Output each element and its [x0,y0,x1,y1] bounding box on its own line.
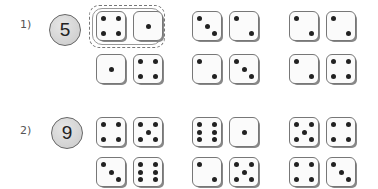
problem-2-target-number: 9 [51,117,83,149]
pip-dot [234,59,239,64]
pip-dot [302,130,307,135]
die-face-1[interactable] [133,11,163,41]
die-face-4[interactable] [326,54,356,84]
die-face-4[interactable] [96,11,126,41]
pip-dot [116,137,121,142]
pip-dot [212,130,217,135]
pip-dot [197,16,202,21]
pip-dot [339,170,344,175]
pip-dot [197,137,202,142]
pip-dot [212,177,217,182]
pip-dot [212,31,217,36]
problem-1-label: 1) [20,18,31,31]
pip-dot [138,162,143,167]
pip-dot [101,162,106,167]
pip-dot [294,122,299,127]
pip-dot [146,130,151,135]
pip-dot [212,122,217,127]
pip-dot [138,122,143,127]
pip-dot [234,177,239,182]
pip-dot [346,137,351,142]
pip-dot [294,137,299,142]
pip-dot [242,67,247,72]
pip-dot [138,137,143,142]
pip-dot [242,170,247,175]
die-face-4[interactable] [326,117,356,147]
pip-dot [294,162,299,167]
pip-dot [309,74,314,79]
pip-dot [331,16,336,21]
pip-dot [234,16,239,21]
pip-dot [138,177,143,182]
die-face-5[interactable] [229,157,259,187]
die-face-1[interactable] [229,117,259,147]
pip-dot [346,31,351,36]
pip-dot [101,137,106,142]
pip-dot [331,162,336,167]
pip-dot [205,24,210,29]
die-face-3[interactable] [229,54,259,84]
die-face-2[interactable] [326,11,356,41]
die-face-4[interactable] [289,157,319,187]
die-face-3[interactable] [326,157,356,187]
pip-dot [346,59,351,64]
die-face-2[interactable] [289,11,319,41]
die-face-2[interactable] [289,54,319,84]
pip-dot [249,162,254,167]
pip-dot [309,177,314,182]
pip-dot [294,16,299,21]
pip-dot [331,137,336,142]
pip-dot [146,24,151,29]
die-face-3[interactable] [192,11,222,41]
pip-dot [116,16,121,21]
die-face-2[interactable] [229,11,259,41]
die-face-6[interactable] [192,117,222,147]
pip-dot [346,122,351,127]
pip-dot [153,59,158,64]
pip-dot [153,177,158,182]
pip-dot [101,122,106,127]
pip-dot [309,122,314,127]
pip-dot [101,31,106,36]
pip-dot [212,137,217,142]
pip-dot [294,177,299,182]
problem-2-label: 2) [20,124,31,137]
pip-dot [309,162,314,167]
pip-dot [309,31,314,36]
pip-dot [331,122,336,127]
pip-dot [294,59,299,64]
pip-dot [153,162,158,167]
pip-dot [331,59,336,64]
pip-dot [153,122,158,127]
die-face-5[interactable] [289,117,319,147]
pip-dot [249,74,254,79]
die-face-6[interactable] [133,157,163,187]
die-face-4[interactable] [133,54,163,84]
die-face-4[interactable] [96,117,126,147]
pip-dot [346,74,351,79]
die-face-2[interactable] [192,54,222,84]
pip-dot [153,137,158,142]
die-face-5[interactable] [133,117,163,147]
pip-dot [197,59,202,64]
pip-dot [197,130,202,135]
pip-dot [116,31,121,36]
die-face-3[interactable] [96,157,126,187]
pip-dot [212,74,217,79]
pip-dot [138,170,143,175]
pip-dot [116,177,121,182]
die-face-2[interactable] [192,157,222,187]
pip-dot [249,177,254,182]
pip-dot [331,74,336,79]
pip-dot [346,177,351,182]
pip-dot [153,170,158,175]
pip-dot [138,59,143,64]
pip-dot [153,74,158,79]
pip-dot [249,31,254,36]
pip-dot [116,122,121,127]
pip-dot [138,74,143,79]
pip-dot [309,137,314,142]
pip-dot [234,162,239,167]
pip-dot [197,122,202,127]
die-face-1[interactable] [96,54,126,84]
